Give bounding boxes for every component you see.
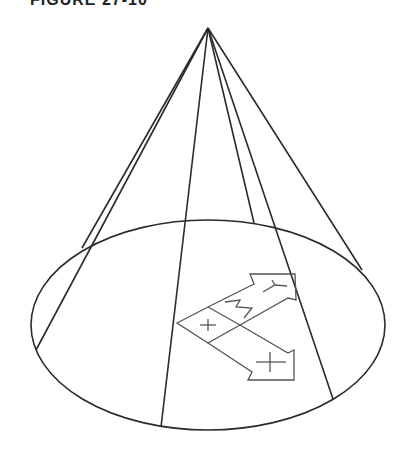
ucs-icon [177, 274, 296, 380]
cone-generator-line [208, 28, 362, 270]
cone-generator-line [36, 28, 208, 350]
cone-diagram [0, 0, 404, 450]
ucs-w-glyph [225, 300, 252, 318]
cone-generator-line [208, 28, 254, 223]
cone-generator-line [82, 28, 208, 248]
cone-generator-line [161, 28, 208, 427]
ucs-y-glyph [263, 285, 287, 292]
